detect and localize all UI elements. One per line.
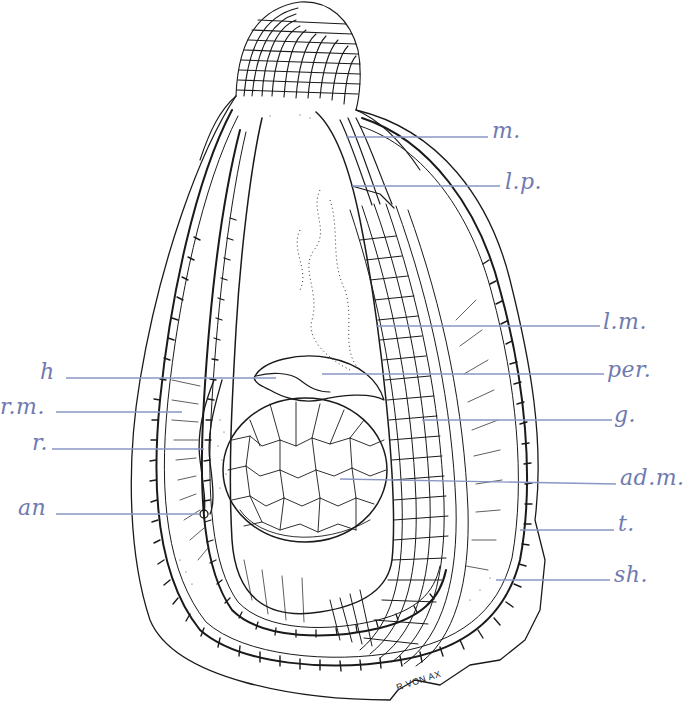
label-tentacles: t. <box>618 513 635 535</box>
gills <box>330 204 468 666</box>
label-mouth: m. <box>492 120 521 142</box>
label-heart: h <box>40 361 55 383</box>
label-anus: an <box>18 497 46 519</box>
visceral-mass <box>230 112 393 614</box>
label-gills: g. <box>614 404 636 426</box>
label-rectum: r. <box>32 432 48 454</box>
digestive-gland <box>297 190 360 370</box>
label-mantle: l.m. <box>603 311 647 333</box>
label-labial-palps: l.p. <box>505 171 542 193</box>
hinge-ligament <box>200 2 420 170</box>
adductor-reticulation <box>228 402 386 537</box>
oyster-drawing <box>0 0 691 709</box>
label-shell: sh. <box>614 564 648 586</box>
label-pericardium: per. <box>607 359 651 381</box>
label-adductor-muscle: ad.m. <box>620 467 685 489</box>
mantle-edge-outer <box>156 110 527 665</box>
label-right-mantle: r.m. <box>0 396 45 418</box>
leader-adm <box>340 479 616 484</box>
adductor-muscle <box>223 398 387 542</box>
labial-palps <box>340 118 394 208</box>
tentacles <box>150 237 532 671</box>
anatomy-figure: m. l.p. l.m. per. g. ad.m. t. sh. h r.m.… <box>0 0 691 709</box>
